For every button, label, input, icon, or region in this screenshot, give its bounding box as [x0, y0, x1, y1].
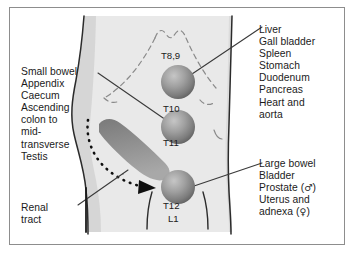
label-aorta: aorta — [259, 109, 315, 121]
label-duodenum: Duodenum — [259, 72, 315, 84]
label-bladder: Bladder — [259, 170, 316, 182]
level-t8-9-label: T8,9 — [161, 51, 180, 61]
label-tract-word: tract — [21, 214, 48, 226]
male-symbol-icon: ♂ — [304, 182, 312, 193]
label-renal-tract: Renal tract — [21, 202, 48, 226]
label-adnexa-text: adnexa ( — [259, 206, 299, 217]
label-heart-and: Heart and — [259, 97, 315, 109]
label-foregut-structures: Liver Gall bladder Spleen Stomach Duoden… — [259, 24, 315, 121]
label-midgut-structures: Small bowel Appendix Caecum Ascending co… — [21, 66, 77, 163]
figure-root: T8,9 T10 T11 T12 L1 Liver Gall bladder S… — [0, 0, 355, 255]
label-small-bowel: Small bowel — [21, 66, 77, 78]
label-large-bowel: Large bowel — [259, 158, 316, 170]
label-hindgut-pelvic-structures: Large bowel Bladder Prostate (♂) Uterus … — [259, 158, 316, 218]
level-t12-label: T12 — [163, 201, 180, 211]
pain-site-spheres — [161, 65, 195, 204]
level-t10-label: T10 — [163, 104, 180, 114]
label-prostate-suffix: ) — [313, 182, 316, 193]
label-pancreas: Pancreas — [259, 84, 315, 96]
label-spleen: Spleen — [259, 48, 315, 60]
pain-site-suprapubic — [161, 170, 195, 204]
label-prostate-text: Prostate ( — [259, 182, 304, 193]
label-stomach: Stomach — [259, 60, 315, 72]
label-adnexa: adnexa (♀) — [259, 206, 316, 218]
level-l1-label: L1 — [168, 214, 179, 224]
label-gall-bladder: Gall bladder — [259, 36, 315, 48]
level-t11-label: T11 — [163, 138, 179, 148]
label-renal-word: Renal — [21, 202, 48, 214]
label-appendix: Appendix — [21, 78, 77, 90]
pain-site-epigastric — [161, 65, 195, 99]
label-liver: Liver — [259, 24, 315, 36]
label-caecum: Caecum — [21, 90, 77, 102]
label-ascending: Ascending — [21, 102, 77, 114]
label-mid: mid- — [21, 126, 77, 138]
label-prostate: Prostate (♂) — [259, 182, 316, 194]
label-uterus-and: Uterus and — [259, 194, 316, 206]
label-colon-to: colon to — [21, 114, 77, 126]
label-testis: Testis — [21, 151, 77, 163]
label-transverse: transverse — [21, 139, 77, 151]
label-adnexa-suffix: ) — [306, 206, 309, 217]
